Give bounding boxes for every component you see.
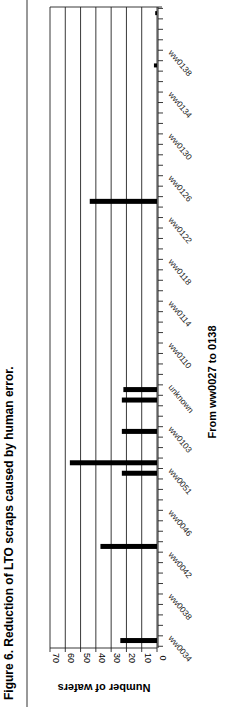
bar-ww0046 bbox=[100, 544, 157, 549]
bar-ww0134 bbox=[154, 63, 157, 67]
category-tick-label: ww0046 bbox=[166, 507, 195, 538]
category-tick-label: ww0038 bbox=[166, 591, 195, 622]
category-tick-label: ww0118 bbox=[166, 256, 194, 287]
value-axis: 010203040506070 bbox=[51, 653, 168, 663]
figure-caption: Figure 6. Reduction of LTO scraps caused… bbox=[2, 366, 16, 700]
bar-chart: ww0034ww0038ww0042ww0046ww0051ww0103unkn… bbox=[0, 0, 232, 707]
figure-container: ww0034ww0038ww0042ww0046ww0051ww0103unkn… bbox=[0, 0, 232, 707]
category-tick-label: ww0103 bbox=[166, 423, 195, 454]
category-tick-label: ww0138 bbox=[166, 47, 195, 78]
category-tick-label: ww0042 bbox=[166, 549, 195, 580]
category-tick-label: ww0051 bbox=[166, 465, 195, 496]
bars-group bbox=[70, 11, 157, 643]
value-tick-label: 30 bbox=[112, 653, 122, 663]
category-tick-label: ww0134 bbox=[166, 89, 195, 120]
value-tick-label: 40 bbox=[97, 653, 107, 663]
value-tick-label: 0 bbox=[158, 655, 168, 660]
category-tick-label: unknown bbox=[166, 382, 196, 415]
bar-ww0103 bbox=[122, 429, 157, 434]
bar-ww0034 bbox=[120, 638, 157, 643]
value-tick-label: 70 bbox=[51, 653, 61, 663]
value-tick-label: 10 bbox=[143, 653, 153, 663]
category-tick-label: ww0130 bbox=[166, 131, 195, 162]
category-tick-label: ww0114 bbox=[166, 298, 194, 329]
bar-unknown bbox=[123, 387, 157, 392]
category-axis: ww0034ww0038ww0042ww0046ww0051ww0103unkn… bbox=[158, 7, 196, 664]
value-tick-label: 50 bbox=[82, 653, 92, 663]
y-axis-label: Number of wafers bbox=[58, 682, 151, 694]
bar-ww0138 bbox=[155, 11, 157, 15]
bar-ww0051 bbox=[122, 471, 157, 476]
category-tick-label: ww0122 bbox=[166, 214, 195, 245]
bar-ww0126 bbox=[90, 199, 157, 204]
category-tick-label: ww0034 bbox=[166, 633, 195, 664]
category-tick-label: ww0110 bbox=[166, 340, 194, 371]
bar-unknown bbox=[122, 398, 157, 403]
bar-ww0052 bbox=[70, 460, 157, 465]
value-tick-label: 60 bbox=[66, 653, 76, 663]
grid-lines bbox=[50, 7, 162, 652]
value-tick-label: 20 bbox=[127, 653, 137, 663]
x-axis-label: From ww0027 to 0138 bbox=[206, 325, 218, 438]
category-tick-label: ww0126 bbox=[166, 173, 195, 204]
